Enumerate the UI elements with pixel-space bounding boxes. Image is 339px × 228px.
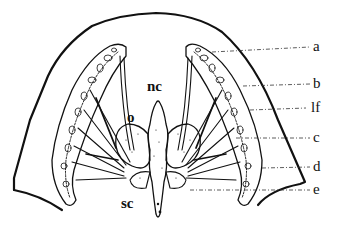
label-a: a xyxy=(313,39,320,54)
body-outline xyxy=(14,13,305,205)
label-b: b xyxy=(313,76,321,91)
nerve-cord xyxy=(148,101,168,217)
label-d: d xyxy=(313,159,321,174)
cross-section-drawing xyxy=(0,0,339,228)
right-fin-inner xyxy=(194,52,247,198)
left-fin-base xyxy=(52,44,126,205)
label-lf: lf xyxy=(311,100,320,115)
label-nc: nc xyxy=(147,79,162,94)
right-fin-base xyxy=(186,44,262,205)
diagram-canvas: nc o sc a b lf c d e xyxy=(0,0,339,228)
left-lower-lobe xyxy=(130,172,150,189)
label-e: e xyxy=(313,182,320,197)
label-o: o xyxy=(127,110,135,125)
body-outline-left-lower xyxy=(14,190,62,210)
label-c: c xyxy=(313,130,320,145)
stippling xyxy=(125,129,190,213)
label-sc: sc xyxy=(121,196,134,211)
right-lower-lobe xyxy=(166,172,186,189)
